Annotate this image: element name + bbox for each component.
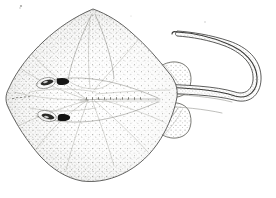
illustration-canvas xyxy=(0,0,276,198)
skate-illustration xyxy=(0,0,276,198)
